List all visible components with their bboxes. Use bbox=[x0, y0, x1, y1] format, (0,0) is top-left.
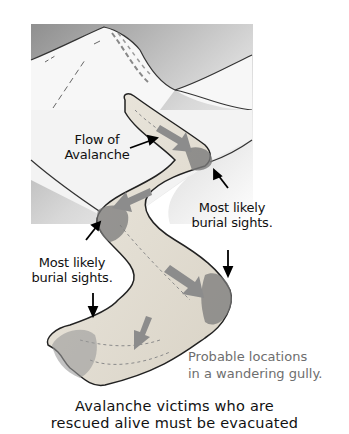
burial-sights-right-label: Most likely burial sights. bbox=[184, 200, 280, 230]
burial-sights-left-label: Most likely burial sights. bbox=[24, 255, 120, 285]
probable-locations-caption: Probable locations in a wandering gully. bbox=[188, 348, 338, 382]
flow-of-avalanche-label: Flow of Avalanche bbox=[62, 132, 132, 162]
arrow-burial-lower-left-pointer-icon bbox=[89, 293, 97, 316]
arrow-burial-left-pointer-icon bbox=[86, 222, 100, 240]
evacuation-caption: Avalanche victims who are rescued alive … bbox=[0, 398, 349, 432]
